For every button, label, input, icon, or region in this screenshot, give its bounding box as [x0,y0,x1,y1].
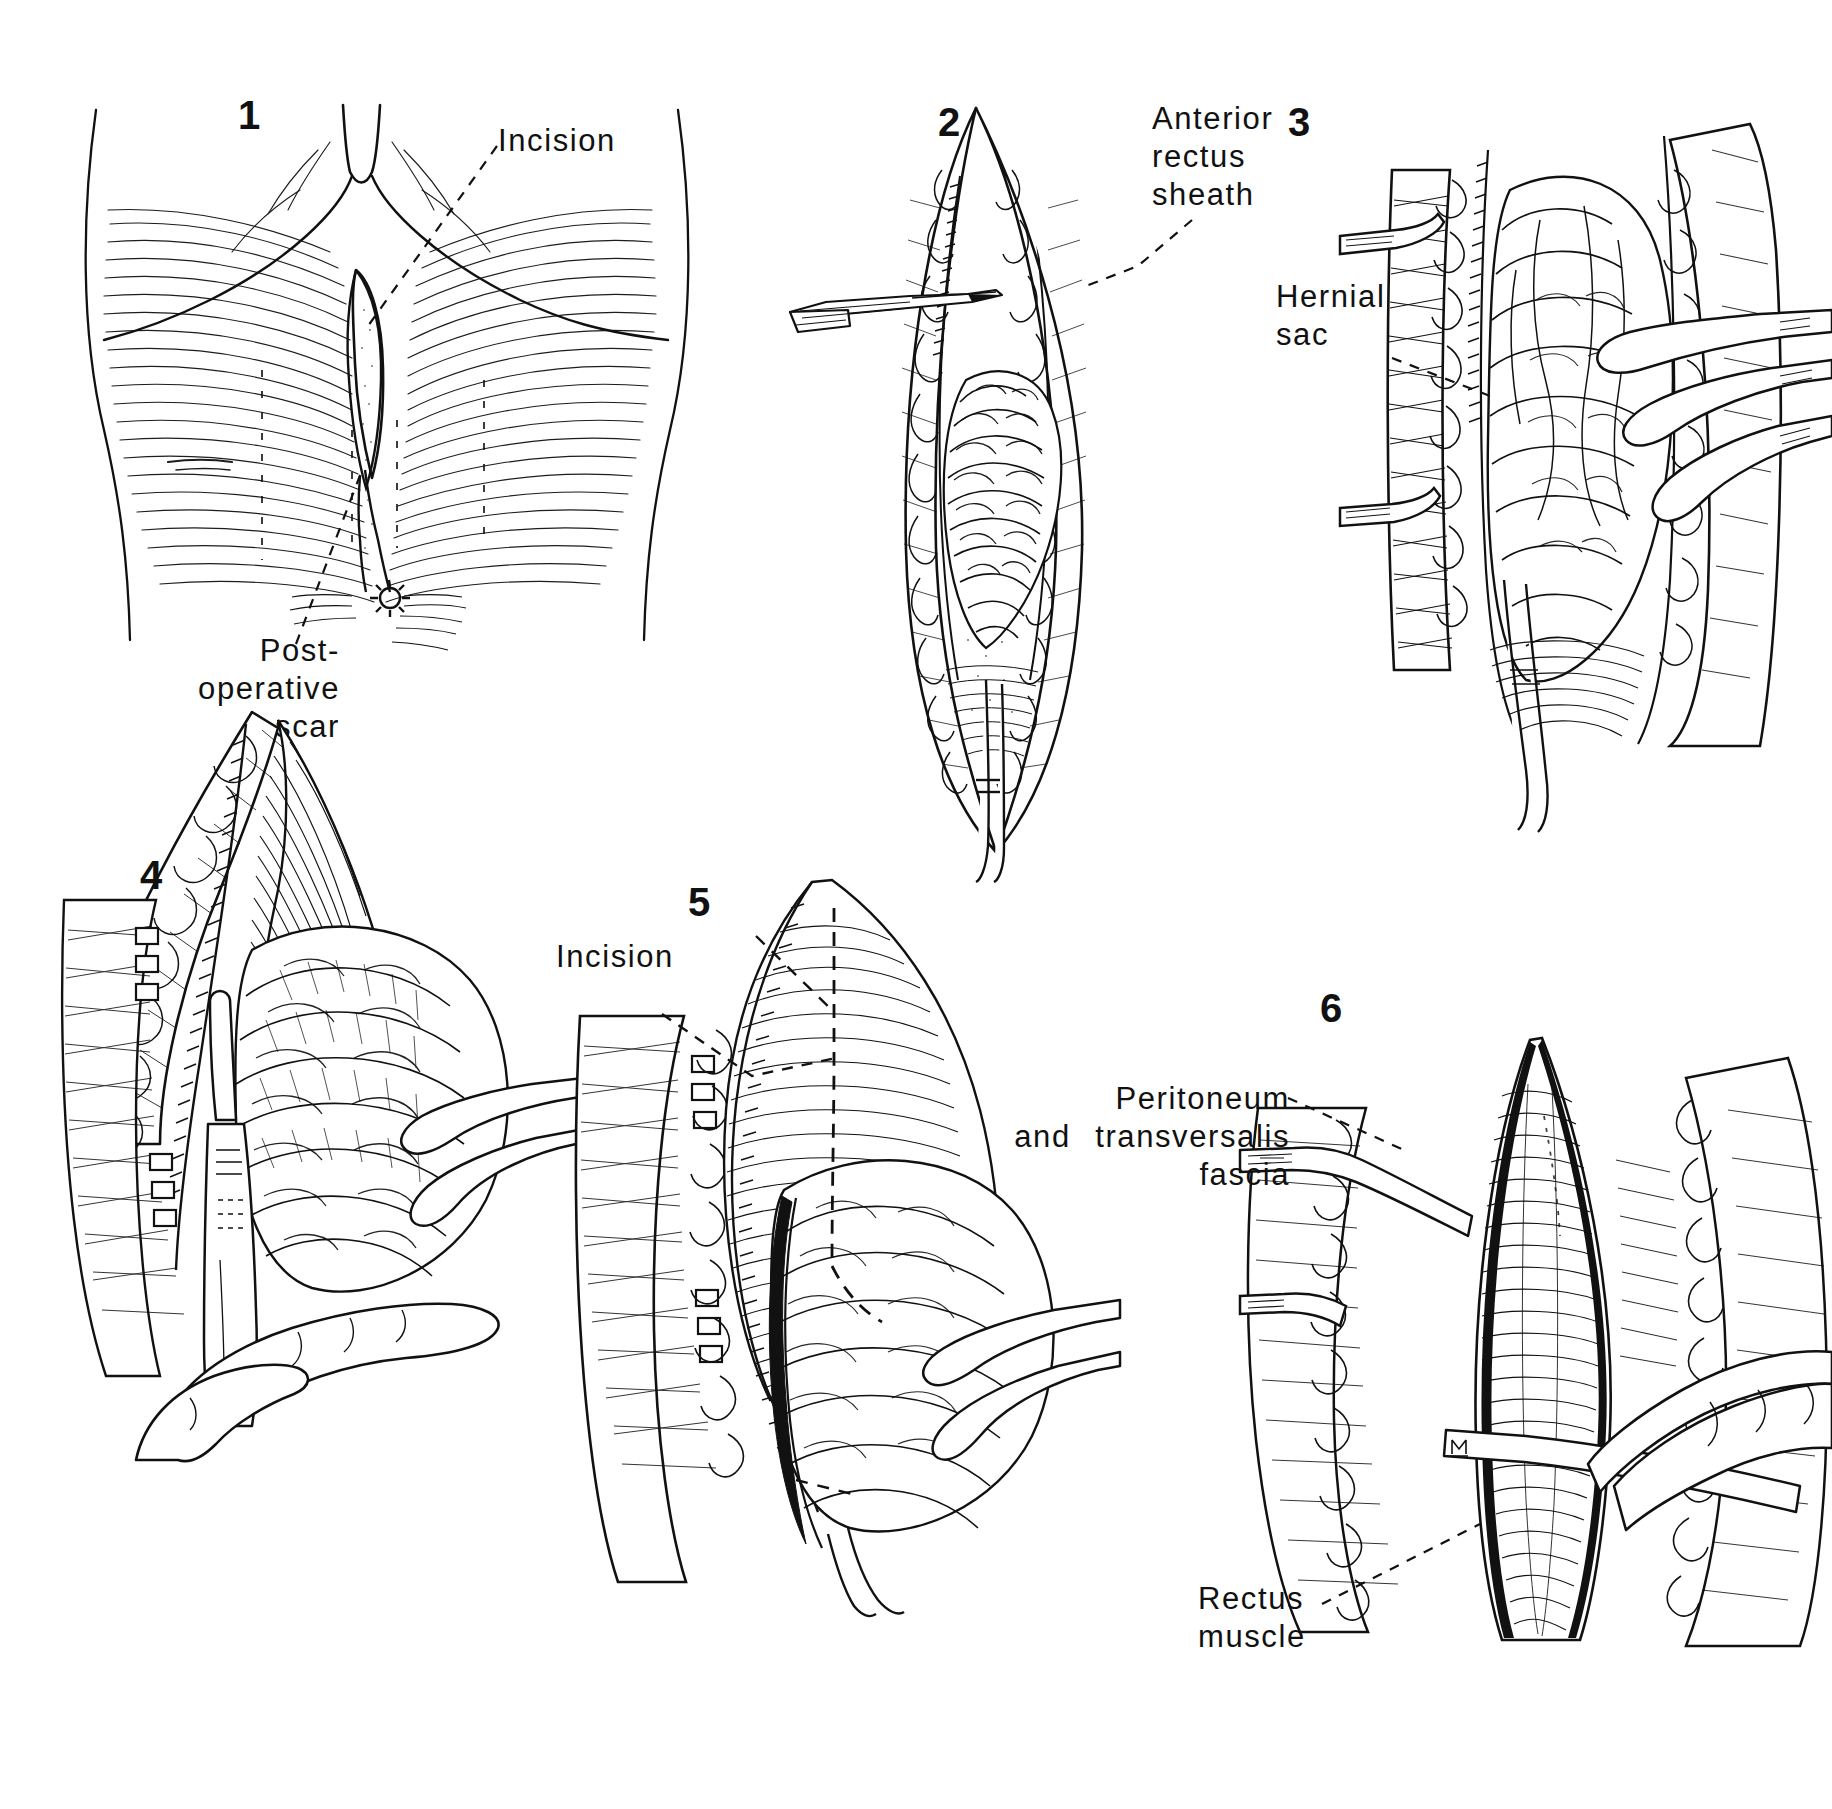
panel-number-2: 2 [938,102,960,142]
leader-line-incision [368,146,497,326]
label-peritoneum-transversalis-fascia: Peritoneum and transversalis fascia [960,1080,1290,1193]
panel-number-4: 4 [140,855,162,895]
illustration-plate: 1 Incision Post- operative scar [0,0,1832,1809]
panel-4-artwork [40,700,600,1460]
panel-2: 2 [790,80,1190,840]
surgeon-hand [136,1304,499,1462]
label-incision-p1: Incision [498,122,616,160]
leader-line-peritoneum [1286,1096,1416,1176]
label-anterior-rectus-sheath: Anterior rectus sheath [1152,100,1273,213]
panel-number-6: 6 [1320,988,1342,1028]
panel-number-5: 5 [688,882,710,922]
label-hernial-sac: Hernial sac [1276,278,1385,354]
panel-3-artwork [1340,110,1832,750]
panel-4: 4 [40,700,600,1460]
panel-number-1: 1 [238,95,260,135]
panel-1: 1 Incision Post- operative scar [0,0,760,760]
leader-line-rectus-muscle [1320,1520,1490,1610]
label-incision-p5: Incision [556,938,674,976]
leader-line-anterior-rectus-sheath [1080,210,1200,320]
leader-line-hernial-sac [1390,352,1500,412]
label-rectus-muscle: Rectus muscle [1198,1580,1306,1656]
leader-line-incision-p5 [660,1010,850,1090]
panel-2-artwork [790,80,1190,860]
panel-number-3: 3 [1288,102,1310,142]
panel-3: 3 [1340,110,1832,750]
